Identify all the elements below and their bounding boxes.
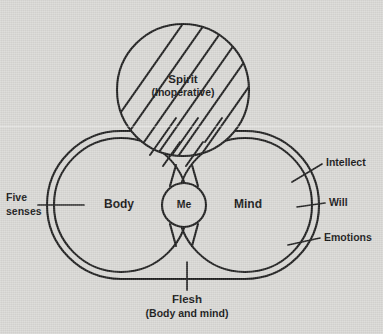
label-five-senses-line2: senses — [6, 205, 42, 217]
label-spirit: Spirit — [168, 73, 198, 85]
label-flesh-note: (Body and mind) — [146, 307, 229, 319]
label-intellect: Intellect — [326, 156, 366, 168]
diagram-canvas: Spirit (Inoperative) Body Mind Me Five s… — [0, 0, 383, 334]
label-five-senses-line1: Five — [6, 191, 27, 203]
concept-diagram-svg: Spirit (Inoperative) Body Mind Me Five s… — [0, 0, 383, 334]
label-me: Me — [177, 198, 192, 210]
label-flesh: Flesh — [172, 293, 202, 305]
label-body: Body — [104, 197, 134, 211]
label-mind: Mind — [234, 197, 262, 211]
label-emotions: Emotions — [324, 231, 372, 243]
label-will: Will — [329, 196, 348, 208]
spirit-circle — [56, 5, 328, 205]
label-spirit-note: (Inoperative) — [151, 86, 214, 98]
